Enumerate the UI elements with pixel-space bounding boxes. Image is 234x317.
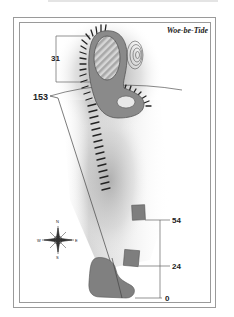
compass-south-label: S <box>56 255 59 260</box>
compass-west-label: W <box>37 238 41 243</box>
map-canvas <box>0 0 234 317</box>
map-title: Woe-be-Tide <box>167 26 208 35</box>
track-distance-label: 153 <box>33 92 48 102</box>
island-height-label: 31 <box>51 54 60 63</box>
upper-marker-square <box>132 205 146 221</box>
compass-east-label: E <box>75 238 78 243</box>
origin-marker-label: 0 <box>165 294 169 303</box>
lower-marker-label: 24 <box>172 262 181 271</box>
lower-marker-square <box>123 249 139 266</box>
pond <box>117 96 135 108</box>
upper-marker-label: 54 <box>172 216 181 225</box>
compass-north-label: N <box>56 219 59 224</box>
compass-rose-icon <box>42 226 74 254</box>
hatched-lagoon <box>94 36 120 80</box>
